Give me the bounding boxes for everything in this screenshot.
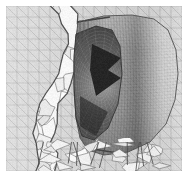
mesh-visualization-canvas (0, 0, 188, 177)
mesh-figure: Unstructured finite-element mesh of a cu… (0, 0, 188, 177)
